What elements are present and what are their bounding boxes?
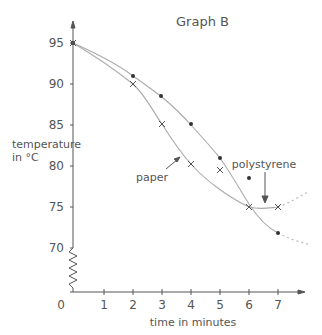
x-tick-6: 6 [245, 298, 253, 312]
paper-arrow-icon [166, 157, 180, 169]
x-tick-1: 1 [100, 298, 108, 312]
y-tick-85: 85 [49, 118, 64, 132]
x-tick-7: 7 [274, 298, 282, 312]
graph-b-chart: Graph B 95 90 85 80 75 70 0 1 [0, 0, 322, 335]
x-tick-3: 3 [158, 298, 166, 312]
x-axis-label: time in minutes [150, 316, 237, 329]
y-axis-label-line1: temperature [12, 138, 81, 151]
y-tick-95: 95 [49, 36, 64, 50]
polystyrene-curve [73, 43, 278, 233]
y-axis [69, 21, 77, 292]
polystyrene-arrow-icon [262, 172, 268, 203]
chart-title: Graph B [176, 14, 229, 29]
y-tick-90: 90 [49, 77, 64, 91]
paper-extrapolation [278, 192, 308, 207]
polystyrene-annotation: polystyrene [232, 158, 297, 171]
x-tick-0: 0 [57, 298, 65, 312]
y-tick-75: 75 [49, 200, 64, 214]
x-axis [70, 290, 305, 294]
y-tick-80: 80 [49, 159, 64, 173]
polystyrene-markers [71, 41, 280, 235]
x-tick-5: 5 [216, 298, 224, 312]
y-tick-70: 70 [49, 241, 64, 255]
y-axis-label-line2: in °C [12, 151, 39, 164]
polystyrene-extrapolation [278, 233, 308, 244]
paper-annotation: paper [136, 171, 168, 184]
x-tick-4: 4 [187, 298, 195, 312]
paper-markers [70, 40, 281, 210]
paper-curve [73, 43, 278, 209]
x-tick-2: 2 [129, 298, 137, 312]
